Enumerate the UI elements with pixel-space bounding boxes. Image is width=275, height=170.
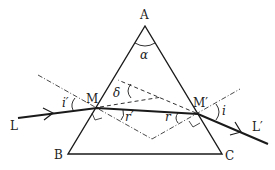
light-ray [18, 108, 268, 144]
prism-diagram: A B C M M′ L L′ α δ i′ r′ r i [0, 0, 275, 170]
arc-r [176, 113, 178, 123]
label-L: L [10, 119, 18, 133]
arc-delta [128, 84, 131, 98]
label-i: i [222, 104, 226, 118]
normal-at-M [38, 75, 152, 139]
label-L-prime: L′ [252, 120, 263, 134]
right-angle-marker-M [92, 113, 102, 120]
label-apex-A: A [139, 8, 149, 22]
right-angle-marker-M-prime [189, 121, 200, 127]
arc-alpha [135, 43, 155, 46]
label-delta: δ [113, 86, 120, 100]
label-base-B: B [54, 148, 63, 162]
label-M: M [86, 92, 98, 106]
label-i-prime: i′ [62, 96, 69, 110]
label-base-C: C [225, 149, 234, 163]
label-M-prime: M′ [193, 96, 208, 110]
arc-i [216, 104, 219, 120]
arc-r-prime [121, 110, 124, 120]
label-alpha: α [140, 48, 148, 62]
label-r-prime: r′ [125, 110, 134, 124]
arc-i-prime [72, 98, 75, 110]
incident-ray-extension [100, 97, 162, 107]
